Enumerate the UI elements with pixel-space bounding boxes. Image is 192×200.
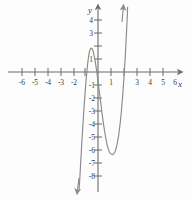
y-tick-label: 1 bbox=[89, 55, 93, 64]
y-tick-label: -5 bbox=[89, 133, 95, 142]
x-tick-label: 4 bbox=[148, 78, 152, 87]
y-axis-label: y bbox=[87, 5, 92, 15]
y-tick-label: 3 bbox=[89, 29, 93, 38]
polynomial-curve bbox=[78, 7, 128, 190]
y-tick-labels: 4 3 1 -1 -2 -3 -4 -5 -6 -7 -8 bbox=[89, 16, 95, 181]
y-tick-label: -3 bbox=[89, 107, 95, 116]
x-tick-label: -4 bbox=[45, 78, 51, 87]
x-axis: -6 -5 -4 -3 -2 1 3 4 5 6 x bbox=[8, 68, 182, 89]
y-tick-label: -6 bbox=[89, 146, 95, 155]
y-tick-label: -2 bbox=[89, 94, 95, 103]
curve-arrow-up bbox=[122, 9, 123, 22]
y-tick-label: -8 bbox=[89, 172, 95, 181]
x-tick-label: 6 bbox=[173, 78, 177, 87]
y-tick-label: 4 bbox=[89, 16, 93, 25]
x-tick-label: -3 bbox=[58, 78, 64, 87]
x-tick-label: -5 bbox=[32, 78, 38, 87]
x-tick-label: 5 bbox=[161, 78, 165, 87]
x-tick-label: -2 bbox=[71, 78, 77, 87]
x-axis-label: x bbox=[177, 79, 182, 89]
y-tick-label: -7 bbox=[89, 159, 95, 168]
x-tick-label: 1 bbox=[109, 78, 113, 87]
y-tick-label: -4 bbox=[89, 120, 95, 129]
x-tick-label: -6 bbox=[19, 78, 25, 87]
curve-path bbox=[79, 7, 127, 189]
x-tick-label: 3 bbox=[135, 78, 139, 87]
cartesian-plot: -6 -5 -4 -3 -2 1 3 4 5 6 x bbox=[0, 0, 192, 200]
graph-figure: -6 -5 -4 -3 -2 1 3 4 5 6 x bbox=[0, 0, 192, 200]
y-tick-label: -1 bbox=[89, 81, 95, 90]
